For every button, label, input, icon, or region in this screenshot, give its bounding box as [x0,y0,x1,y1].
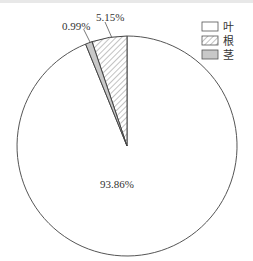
legend-label-stem: 茎 [223,49,234,62]
label-root-percent: 5.15% [96,11,124,23]
label-stem-percent: 0.99% [62,20,90,32]
legend-swatch-stem [202,50,218,59]
legend-label-root: 根 [223,34,234,48]
legend: 叶 根 茎 [202,21,234,62]
legend-swatch-leaf [202,22,218,31]
cropped-caption-strip [0,0,253,3]
legend-swatch-root [202,36,218,45]
label-leaf-percent: 93.86% [100,178,134,190]
pie-chart: 0.99% 5.15% 93.86% 叶 根 茎 [0,0,253,261]
leader-line-root [105,22,112,38]
legend-label-leaf: 叶 [223,21,234,34]
